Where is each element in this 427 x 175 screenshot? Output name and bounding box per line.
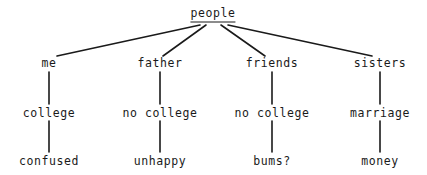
tree-edge-diagonal-2 [221,25,265,56]
tree-node-level1-2: friends [246,56,299,70]
tree-edge-diagonal-0 [57,25,200,56]
tree-edge-diagonal-3 [228,25,372,56]
tree-edge-diagonal-1 [163,25,206,56]
tree-node-level2-2: no college [234,106,309,120]
tree-node-root: people [190,6,235,23]
tree-node-level2-0: college [23,106,76,120]
tree-edges [0,0,427,175]
tree-node-level1-0: me [41,56,56,70]
tree-node-level2-3: marriage [350,106,410,120]
tree-node-level3-0: confused [19,154,79,168]
tree-node-level3-1: unhappy [134,154,187,168]
tree-node-level1-3: sisters [354,56,407,70]
tree-node-level2-1: no college [122,106,197,120]
tree-node-level1-1: father [137,56,182,70]
tree-node-level3-3: money [361,154,399,168]
tree-node-level3-2: bums? [253,154,291,168]
diagonal-edge-group [57,25,372,56]
vertical-edge-group [49,72,380,152]
tree-diagram-canvas: people mecollegeconfusedfatherno college… [0,0,427,175]
